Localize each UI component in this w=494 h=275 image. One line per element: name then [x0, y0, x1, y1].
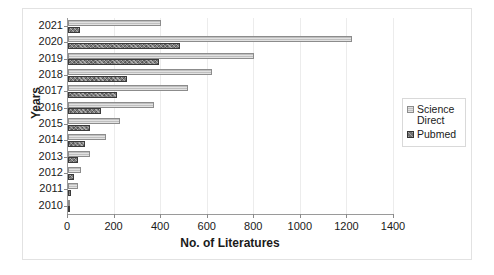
- chart-row: 2014: [68, 132, 393, 148]
- x-tick-mark: [253, 214, 254, 218]
- y-tick-label: 2012: [23, 166, 63, 178]
- x-tick-label: 1400: [381, 220, 405, 232]
- bar-science-direct: [68, 151, 90, 157]
- y-tick-label: 2019: [23, 52, 63, 64]
- bar-pubmed: [68, 108, 101, 114]
- x-tick-label: 1000: [288, 220, 312, 232]
- x-tick-label: 800: [244, 220, 262, 232]
- legend-label-science-direct: Science Direct: [417, 104, 461, 126]
- chart-figure: Years 0200400600800100012001400202120202…: [0, 0, 494, 275]
- chart-row: 2015: [68, 116, 393, 132]
- bar-science-direct: [68, 85, 188, 91]
- chart-row: 2010: [68, 198, 393, 214]
- bar-science-direct: [68, 183, 78, 189]
- legend-item-pubmed: Pubmed: [407, 129, 461, 140]
- bar-science-direct: [68, 102, 154, 108]
- chart-row: 2018: [68, 67, 393, 83]
- chart-row: 2019: [68, 51, 393, 67]
- y-tick-label: 2011: [23, 182, 63, 194]
- x-tick-mark: [114, 214, 115, 218]
- chart-row: 2021: [68, 18, 393, 34]
- bar-science-direct: [68, 36, 352, 42]
- bar-pubmed: [68, 190, 71, 196]
- y-tick-label: 2010: [23, 199, 63, 211]
- x-tick-mark: [346, 214, 347, 218]
- pubmed-swatch-icon: [407, 131, 414, 138]
- bar-science-direct: [68, 20, 161, 26]
- x-tick-mark: [393, 214, 394, 218]
- bar-pubmed: [68, 125, 90, 131]
- bar-pubmed: [68, 59, 159, 65]
- x-tick-label: 400: [151, 220, 169, 232]
- x-tick-label: 200: [104, 220, 122, 232]
- y-tick-label: 2016: [23, 101, 63, 113]
- y-tick-label: 2017: [23, 84, 63, 96]
- bar-science-direct: [68, 167, 81, 173]
- bar-pubmed: [68, 27, 80, 33]
- bar-science-direct: [68, 200, 70, 206]
- chart-row: 2012: [68, 165, 393, 181]
- plot-area: 0200400600800100012001400202120202019201…: [67, 18, 393, 214]
- legend-item-science-direct: Science Direct: [407, 104, 461, 126]
- bar-pubmed: [68, 76, 127, 82]
- y-tick-label: 2015: [23, 117, 63, 129]
- x-tick-label: 600: [198, 220, 216, 232]
- x-axis-line: [67, 214, 393, 215]
- y-tick-label: 2013: [23, 150, 63, 162]
- bar-pubmed: [68, 141, 85, 147]
- chart-legend: Science Direct Pubmed: [402, 98, 466, 147]
- bar-pubmed: [68, 157, 78, 163]
- bar-pubmed: [68, 206, 70, 212]
- science-direct-swatch-icon: [407, 106, 414, 113]
- y-tick-label: 2018: [23, 68, 63, 80]
- chart-row: 2011: [68, 181, 393, 197]
- bar-pubmed: [68, 43, 180, 49]
- legend-label-pubmed: Pubmed: [417, 129, 456, 140]
- chart-row: 2020: [68, 34, 393, 50]
- y-tick-label: 2020: [23, 35, 63, 47]
- y-tick-label: 2014: [23, 133, 63, 145]
- x-tick-mark: [160, 214, 161, 218]
- x-tick-mark: [207, 214, 208, 218]
- x-gridline: [393, 18, 394, 214]
- y-tick-label: 2021: [23, 19, 63, 31]
- chart-row: 2013: [68, 149, 393, 165]
- bar-science-direct: [68, 53, 254, 59]
- bar-pubmed: [68, 174, 74, 180]
- x-axis-title: No. of Literatures: [67, 236, 393, 250]
- bar-pubmed: [68, 92, 117, 98]
- chart-row: 2017: [68, 83, 393, 99]
- x-tick-label: 0: [64, 220, 70, 232]
- bar-science-direct: [68, 118, 120, 124]
- x-tick-mark: [67, 214, 68, 218]
- bar-science-direct: [68, 134, 106, 140]
- chart-row: 2016: [68, 100, 393, 116]
- x-tick-label: 1200: [334, 220, 358, 232]
- x-tick-mark: [300, 214, 301, 218]
- bar-science-direct: [68, 69, 212, 75]
